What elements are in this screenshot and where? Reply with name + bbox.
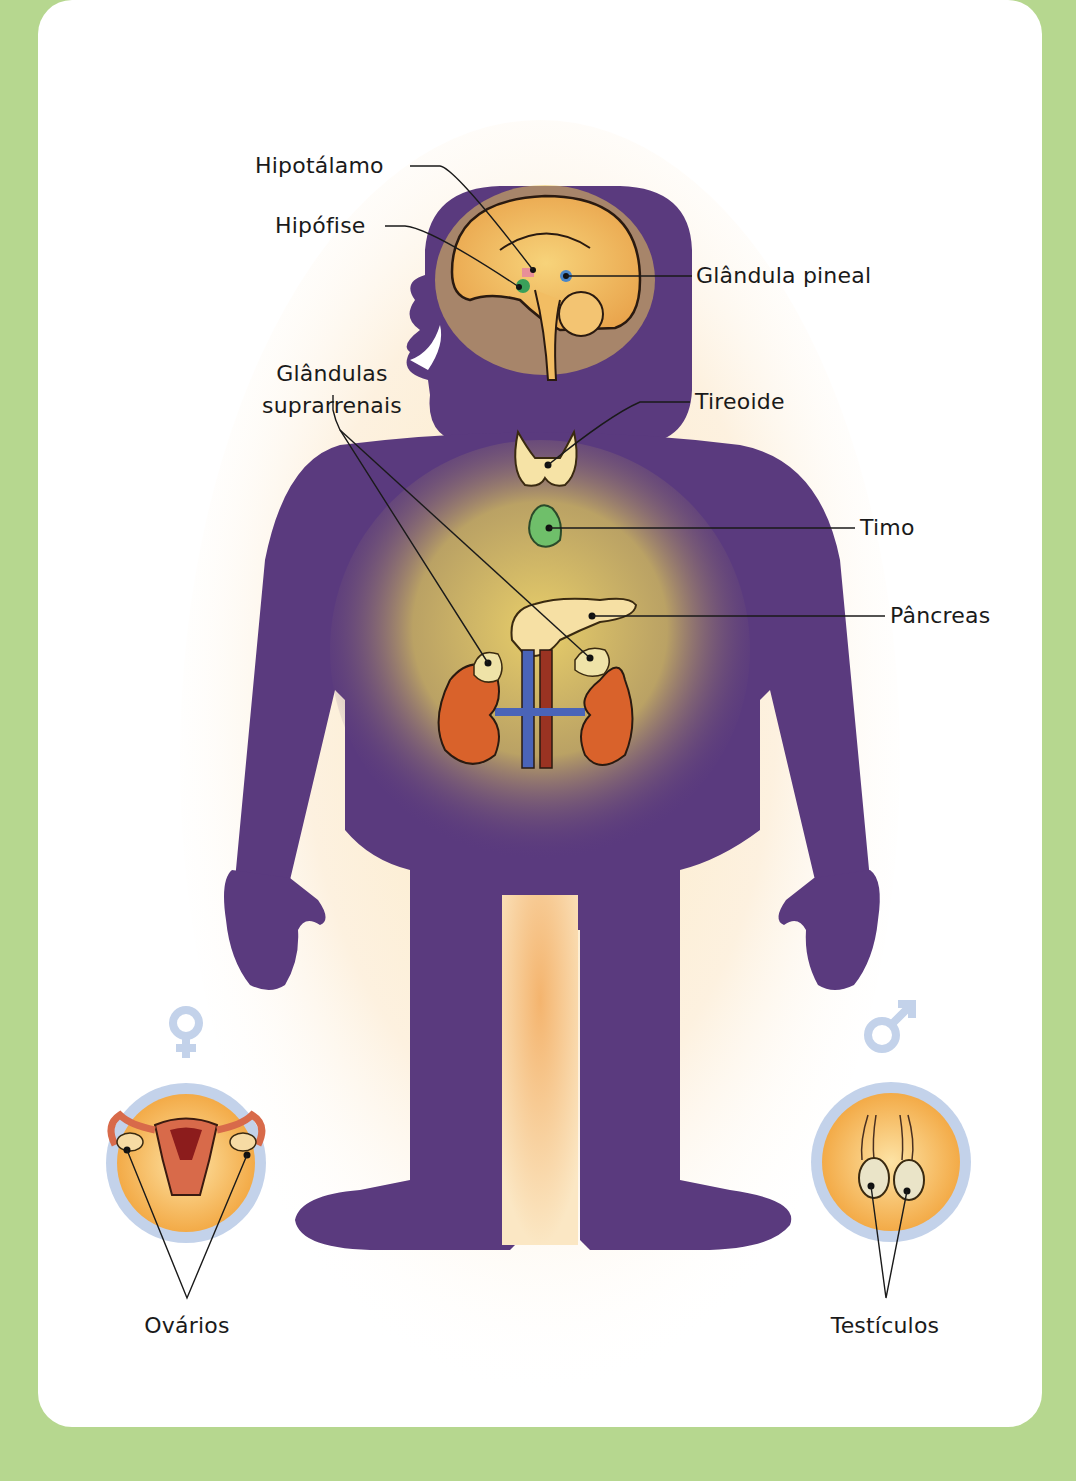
testes-illustration [811,1082,971,1298]
label-hipotalamo: Hipotálamo [255,153,384,179]
label-glandulas-suprarrenais-line1: Glândulas [252,361,412,387]
adrenal-left [474,652,502,682]
male-symbol-icon [868,1004,912,1049]
ovaries-illustration [106,1083,266,1298]
label-pancreas: Pâncreas [890,603,990,629]
label-glandulas-suprarrenais-line2: suprarrenais [252,393,412,419]
female-symbol-icon [173,1010,199,1058]
label-glandula-pineal: Glândula pineal [696,263,871,289]
label-testiculos: Testículos [815,1313,955,1339]
label-ovarios: Ovários [127,1313,247,1339]
thymus-illustration [529,505,561,546]
label-tireoide: Tireoide [695,389,785,415]
label-hipofise: Hipófise [275,213,366,239]
leg-gap [502,895,578,1245]
endocrine-system-illustration [0,0,1076,1481]
label-timo: Timo [860,515,915,541]
